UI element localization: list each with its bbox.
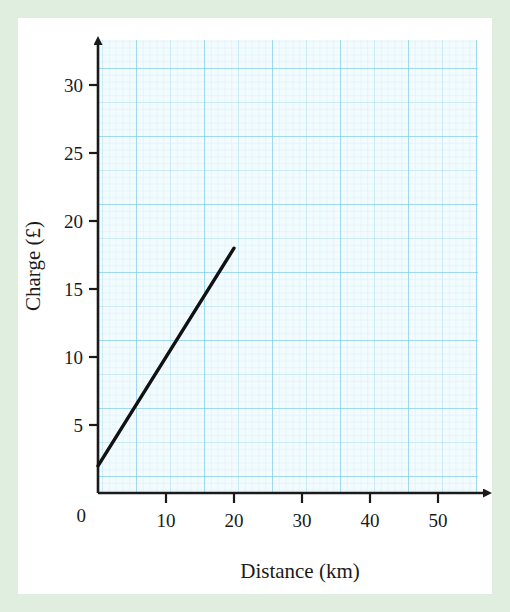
x-tick-label-20: 20: [225, 510, 244, 531]
y-tick-label-15: 15: [64, 279, 83, 300]
page-background: 5 10 15 20 25 30 0 10 20 30 40 50 Distan…: [0, 0, 510, 612]
x-tick-labels: 10 20 30 40 50: [157, 510, 448, 531]
y-axis-title: Charge (£): [21, 221, 45, 311]
x-tick-label-10: 10: [157, 510, 176, 531]
x-tick-label-30: 30: [293, 510, 312, 531]
plot-grid: [98, 40, 478, 493]
y-tick-labels: 5 10 15 20 25 30: [64, 75, 83, 436]
origin-label-0: 0: [77, 505, 87, 526]
y-tick-label-5: 5: [74, 415, 84, 436]
y-tick-label-10: 10: [64, 347, 83, 368]
x-axis-title: Distance (km): [240, 559, 360, 583]
y-axis-ticks: [89, 85, 98, 425]
y-tick-label-30: 30: [64, 75, 83, 96]
x-tick-label-40: 40: [361, 510, 380, 531]
x-tick-label-50: 50: [429, 510, 448, 531]
y-tick-label-20: 20: [64, 211, 83, 232]
y-tick-label-25: 25: [64, 143, 83, 164]
chart-figure: 5 10 15 20 25 30 0 10 20 30 40 50 Distan…: [0, 0, 510, 612]
x-axis-ticks: [166, 493, 438, 503]
